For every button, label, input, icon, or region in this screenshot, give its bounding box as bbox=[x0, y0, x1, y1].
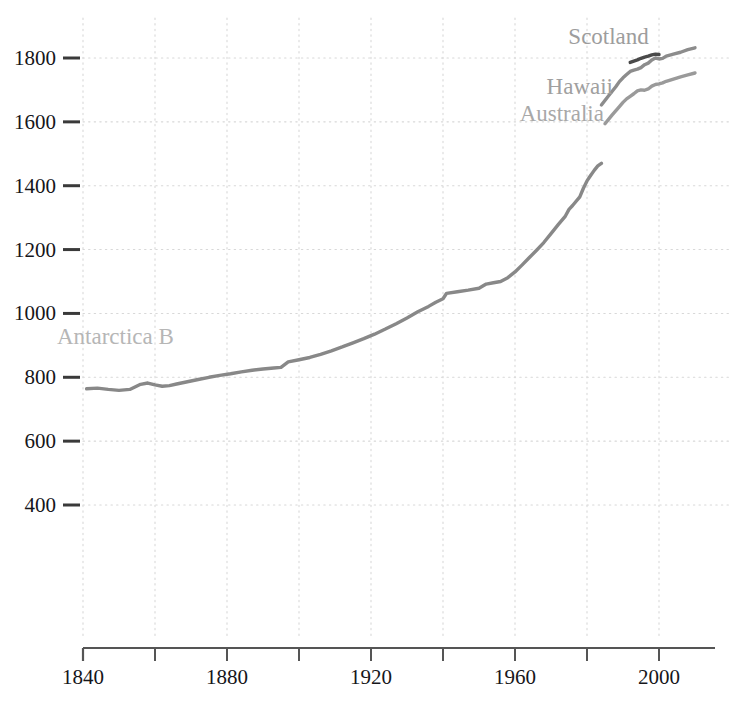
y-tick-label-800: 800 bbox=[25, 365, 57, 389]
x-tick-label-2000: 2000 bbox=[638, 665, 680, 689]
series-label-antarctica-b: Antarctica B bbox=[57, 324, 174, 349]
y-tick-label-1000: 1000 bbox=[14, 301, 56, 325]
y-tick-label-400: 400 bbox=[25, 493, 57, 517]
chart-container: 40060080010001200140016001800 1840188019… bbox=[0, 0, 741, 703]
y-tick-label-1200: 1200 bbox=[14, 238, 56, 262]
y-tick-label-1600: 1600 bbox=[14, 110, 56, 134]
y-axis-ticks bbox=[63, 58, 80, 505]
x-tick-label-1880: 1880 bbox=[206, 665, 248, 689]
x-axis bbox=[83, 648, 715, 661]
x-axis-tick-labels: 18401880192019602000 bbox=[62, 665, 680, 689]
series-label-scotland: Scotland bbox=[568, 24, 649, 49]
series-label-hawaii: Hawaii bbox=[547, 74, 613, 99]
y-tick-label-1400: 1400 bbox=[14, 174, 56, 198]
series-label-australia: Australia bbox=[520, 101, 604, 126]
x-tick-label-1960: 1960 bbox=[494, 665, 536, 689]
y-axis-tick-labels: 40060080010001200140016001800 bbox=[14, 46, 56, 517]
x-tick-label-1840: 1840 bbox=[62, 665, 104, 689]
y-tick-label-600: 600 bbox=[25, 429, 57, 453]
series-line-antarctica-b bbox=[87, 163, 602, 390]
horizontal-gridlines bbox=[83, 58, 729, 505]
y-tick-label-1800: 1800 bbox=[14, 46, 56, 70]
line-chart: 40060080010001200140016001800 1840188019… bbox=[0, 0, 741, 703]
x-tick-label-1920: 1920 bbox=[350, 665, 392, 689]
